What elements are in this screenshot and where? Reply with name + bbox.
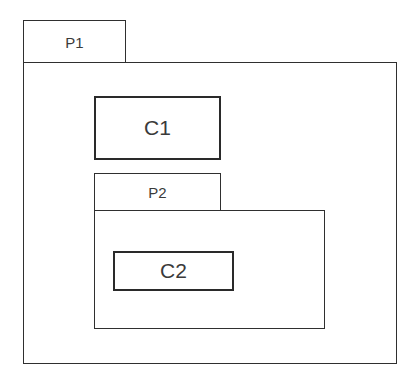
component-c2: C2 bbox=[113, 251, 234, 291]
package-p2-tab: P2 bbox=[94, 173, 221, 211]
package-p1-label: P1 bbox=[24, 33, 125, 50]
component-c1-label: C1 bbox=[96, 116, 219, 140]
package-p2-label: P2 bbox=[95, 184, 220, 201]
component-c2-label: C2 bbox=[115, 259, 232, 283]
package-p1-tab: P1 bbox=[23, 20, 126, 63]
component-c1: C1 bbox=[94, 96, 221, 160]
